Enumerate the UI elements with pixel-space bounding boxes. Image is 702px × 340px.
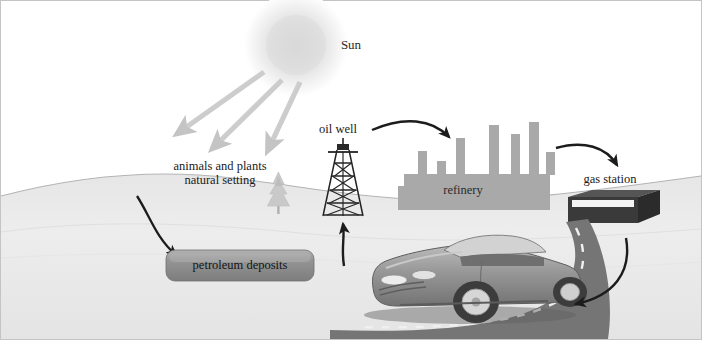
gas-station-building-icon — [568, 190, 660, 223]
petroleum-deposits-box — [166, 250, 314, 281]
diagram-canvas — [0, 0, 702, 340]
petroleum-to-oilwell-arrow — [343, 224, 344, 266]
diagram-figure: Sun animals and plants natural setting o… — [0, 0, 702, 340]
